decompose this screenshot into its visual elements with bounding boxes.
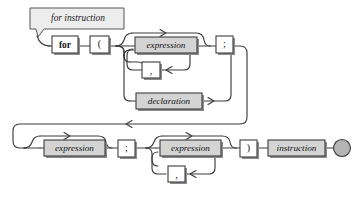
node-comma-init-label: , — [150, 65, 153, 76]
rail-branch-down-to-declaration — [116, 46, 130, 101]
node-for-keyword: for — [52, 36, 80, 55]
node-instruction-label: instruction — [277, 143, 317, 153]
node-expression-step-label: expression — [171, 143, 210, 153]
node-semicolon-1: ; — [216, 36, 235, 55]
node-expression-step: expression — [160, 140, 223, 158]
railroad-diagram-svg: for instruction — [0, 0, 364, 206]
node-comma-init: , — [142, 62, 162, 80]
rail-branch-up-to-bypass — [116, 33, 132, 46]
node-open-paren: ( — [90, 36, 111, 55]
node-expression-init-label: expression — [147, 40, 186, 50]
node-expression-cond: expression — [44, 140, 107, 158]
node-comma-step: , — [168, 166, 187, 184]
node-expression-cond-label: expression — [55, 143, 94, 153]
node-semicolon-2: ; — [118, 140, 137, 159]
node-close-paren-label: ) — [247, 142, 250, 154]
railroad-diagram-canvas: for instruction — [0, 0, 364, 206]
rail-row2-branch-up — [24, 136, 40, 148]
node-instruction: instruction — [268, 140, 327, 158]
rail-wrap-row1-to-row2 — [13, 46, 247, 148]
node-close-paren: ) — [240, 140, 259, 159]
title-banner-group: for instruction — [30, 8, 124, 37]
node-comma-step-label: , — [175, 169, 178, 180]
node-end-marker — [334, 140, 351, 157]
node-semicolon-1-label: ; — [223, 38, 226, 49]
banner-tail-connector — [37, 36, 50, 46]
node-semicolon-2-label: ; — [125, 142, 128, 153]
title-banner-label: for instruction — [51, 13, 105, 23]
end-marker-circle — [334, 140, 351, 157]
node-for-keyword-label: for — [59, 40, 71, 50]
node-declaration-label: declaration — [148, 96, 191, 106]
node-expression-init: expression — [135, 37, 199, 55]
node-declaration: declaration — [136, 93, 204, 111]
